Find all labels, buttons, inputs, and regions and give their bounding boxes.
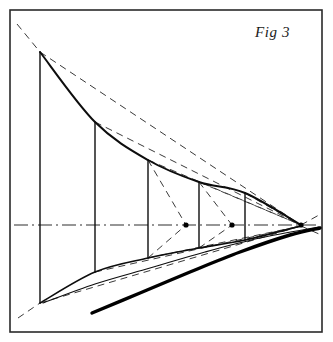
figure-background bbox=[0, 0, 333, 342]
figure-label: Fig 3 bbox=[255, 24, 290, 41]
figure-page: Fig 3 bbox=[0, 0, 333, 342]
axis-node-2 bbox=[229, 222, 234, 227]
axis-node-1 bbox=[183, 222, 188, 227]
figure-canvas bbox=[0, 0, 333, 342]
axis-node-3 bbox=[298, 222, 303, 227]
